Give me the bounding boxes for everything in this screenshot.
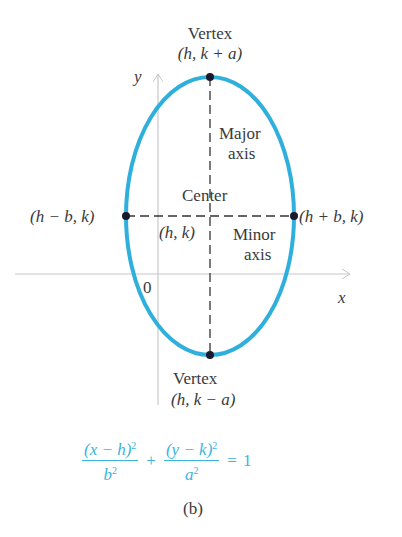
term2-numerator: (y − k) [166, 440, 212, 459]
term1-denominator-exponent: 2 [112, 465, 117, 476]
top-vertex-point [206, 73, 214, 81]
right-point-label: (h + b, k) [299, 208, 363, 226]
center-coords: (h, k) [159, 224, 195, 242]
term1-numerator-exponent: 2 [131, 440, 136, 451]
plus-sign: + [146, 451, 156, 471]
term1-numerator: (x − h) [84, 440, 131, 459]
term2-denominator-exponent: 2 [193, 465, 198, 476]
equation-term2: (y − k)2 a2 [164, 437, 219, 484]
equals-sign: = [227, 451, 237, 471]
equation-term1: (x − h)2 b2 [82, 437, 138, 484]
ellipse-diagram: Vertex (h, k + a) y x 0 Major axis Cente… [0, 0, 402, 537]
center-title: Center [182, 187, 227, 205]
x-axis-label: x [338, 289, 346, 307]
origin-label: 0 [143, 279, 152, 297]
bottom-vertex-title: Vertex [173, 370, 217, 388]
major-axis-label-line2: axis [228, 145, 255, 163]
top-vertex-title: Vertex [160, 25, 260, 43]
top-vertex-coords: (h, k + a) [150, 45, 270, 63]
equation-rhs: 1 [243, 451, 252, 471]
term1-denominator: b [103, 465, 112, 484]
minor-axis-label-line2: axis [244, 246, 271, 264]
major-axis-label-line1: Major [219, 125, 261, 143]
left-point-label: (h − b, k) [30, 208, 94, 226]
minor-axis-label-line1: Minor [233, 226, 276, 244]
term2-numerator-exponent: 2 [212, 440, 217, 451]
ellipse-equation: (x − h)2 b2 + (y − k)2 a2 = 1 [80, 437, 251, 484]
bottom-vertex-point [206, 351, 214, 359]
bottom-vertex-coords: (h, k − a) [171, 391, 235, 409]
figure-caption: (b) [183, 500, 203, 518]
right-covertex-point [290, 212, 298, 220]
left-covertex-point [122, 212, 130, 220]
y-axis-label: y [134, 68, 142, 86]
